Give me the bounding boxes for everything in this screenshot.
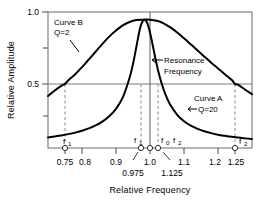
x-tick-label-1-0: 1.0 [144,157,156,167]
x-tick-label-0-8: 0.8 [79,157,91,167]
marker-circle-f2-curveA [155,145,160,150]
chart-svg: 1.0 0.5 Relative Amplitude 0.75 0.8 0.9 … [0,0,266,208]
y-axis-title: Relative Amplitude [6,41,16,119]
resonance-label-line1: Resonance [164,56,205,65]
resonance-curve-figure: 1.0 0.5 Relative Amplitude 0.75 0.8 0.9 … [0,0,266,208]
x-tick-label-0-9: 0.9 [110,157,122,167]
curve-b-q-label: Q=2 [54,28,70,37]
sub-label-1-125: 1.125 [161,168,183,178]
x-tick-label-1-25: 1.25 [228,157,245,167]
x-tick-label-0-75: 0.75 [57,157,74,167]
resonance-label-line2: Frequency [164,67,202,76]
marker-circle-f2-curveB [232,145,237,150]
leader-0-975 [133,152,138,160]
y-tick-label-1-0: 1.0 [27,7,39,17]
curve-a-q-label: Q=20 [198,105,218,114]
x-tick-labels: 0.75 0.8 0.9 1.0 1.1 1.2 1.25 [57,157,245,167]
y-axis-ticks [42,12,48,116]
marker-circle-f0 [147,145,152,150]
y-tick-label-0-5: 0.5 [27,79,39,89]
x-tick-label-1-1: 1.1 [178,157,190,167]
sub-label-0-975: 0.975 [122,168,144,178]
marker-circle-f1-curveA [138,145,143,150]
curve-b-label: Curve B [54,18,83,27]
x-tick-label-1-2: 1.2 [209,157,221,167]
x-axis-title: Relative Frequency [109,185,190,195]
leader-1-125 [163,152,170,160]
curve-a-label: Curve A [194,94,223,103]
marker-circle-f1-curveB [62,145,67,150]
